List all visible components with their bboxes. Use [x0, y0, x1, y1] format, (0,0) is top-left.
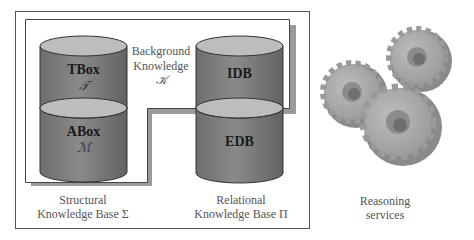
background-knowledge-line2: Knowledge: [121, 59, 201, 73]
abox-label: ABox: [40, 124, 127, 140]
idb-label: IDB: [196, 66, 283, 82]
relational-kb-caption-line2: Knowledge Base Π: [180, 207, 302, 221]
edb-label: EDB: [196, 134, 283, 150]
reasoning-caption-line2: services: [340, 208, 430, 222]
reasoning-caption-line1: Reasoning: [340, 194, 430, 208]
knowledge-base-diagram: Background Knowledge 𝒦 TBox 𝒯 ABox ℳ IDB…: [0, 0, 474, 240]
structural-kb-caption-line2: Knowledge Base Σ: [22, 207, 144, 221]
background-knowledge-line1: Background: [121, 44, 201, 58]
gear-bottom: [364, 88, 442, 166]
relational-kb-caption-line1: Relational: [180, 193, 302, 207]
tbox-symbol: 𝒯: [40, 79, 127, 93]
gears-icon: [324, 30, 452, 166]
gear-top-right: [390, 30, 452, 92]
tbox-label: TBox: [40, 62, 127, 78]
abox-symbol: ℳ: [40, 141, 127, 155]
background-knowledge-symbol: 𝒦: [121, 73, 201, 87]
structural-kb-caption-line1: Structural: [22, 193, 144, 207]
